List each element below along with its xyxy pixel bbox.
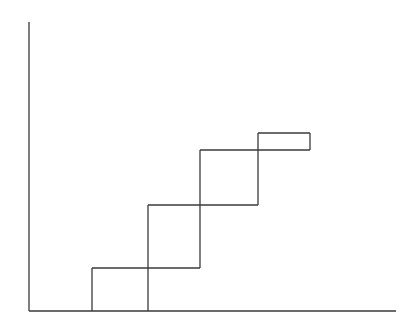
step-segments xyxy=(92,133,310,311)
staircase-diagram xyxy=(0,0,417,328)
